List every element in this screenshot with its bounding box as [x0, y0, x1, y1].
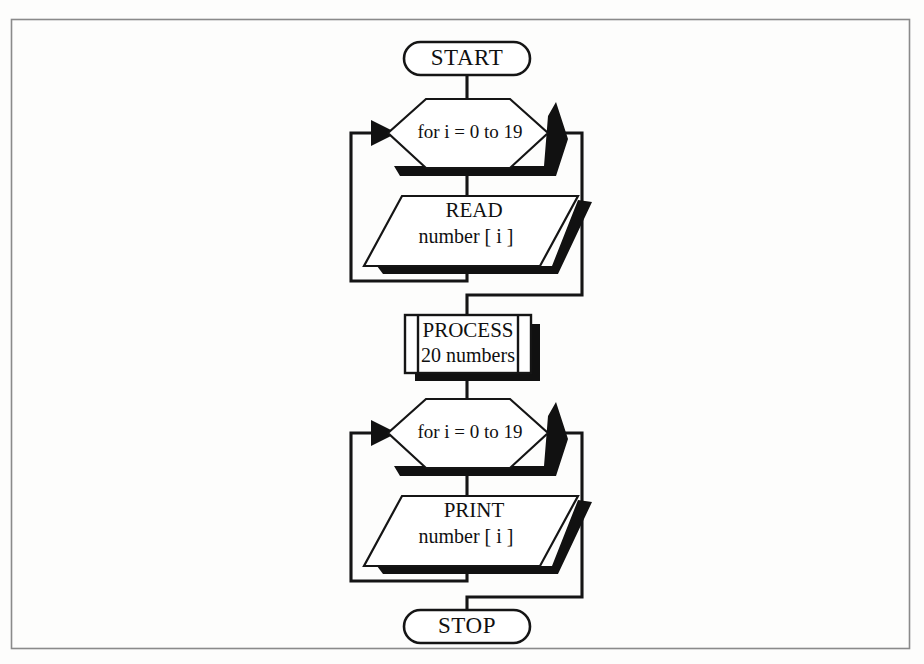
process-label-line2: 20 numbers [421, 344, 515, 366]
node-process[interactable]: PROCESS 20 numbers [405, 315, 540, 381]
print-label-line1: PRINT [444, 498, 505, 522]
print-label-line2: number [ i ] [419, 525, 514, 547]
node-read[interactable]: READ number [ i ] [364, 196, 592, 274]
loop1-label: for i = 0 to 19 [417, 121, 522, 142]
node-stop[interactable]: STOP [404, 610, 530, 643]
node-loop2[interactable]: for i = 0 to 19 [388, 399, 568, 476]
read-label-line2: number [ i ] [419, 225, 514, 247]
node-print[interactable]: PRINT number [ i ] [364, 496, 592, 574]
flowchart-canvas: START for i = 0 to 19 READ number [ i ] … [0, 0, 924, 664]
node-loop1[interactable]: for i = 0 to 19 [388, 99, 568, 176]
diagram-page: START for i = 0 to 19 READ number [ i ] … [0, 0, 924, 664]
stop-label: STOP [438, 613, 496, 638]
start-label: START [431, 45, 504, 70]
node-start[interactable]: START [404, 42, 530, 75]
loop2-label: for i = 0 to 19 [417, 421, 522, 442]
process-label-line1: PROCESS [422, 318, 513, 342]
read-label-line1: READ [445, 198, 502, 222]
